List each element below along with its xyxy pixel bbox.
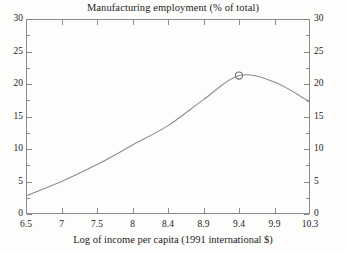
y-axis-tick-label-right: 0 <box>314 209 319 219</box>
axis-tick <box>27 149 32 150</box>
x-axis-tick-label: 8 <box>130 220 135 230</box>
axis-tick <box>304 52 309 53</box>
chart-title: Manufacturing employment (% of total) <box>0 2 346 13</box>
x-axis-tick-label: 8.9 <box>198 220 210 230</box>
axis-tick <box>204 20 205 25</box>
axis-tick <box>27 198 30 199</box>
axis-tick <box>304 149 309 150</box>
axis-tick <box>27 68 30 69</box>
y-axis-tick-label-right: 10 <box>314 144 324 154</box>
axis-tick <box>306 68 309 69</box>
axis-tick <box>97 20 98 25</box>
axis-tick <box>304 84 309 85</box>
axis-tick <box>27 133 30 134</box>
axis-tick <box>133 208 134 213</box>
axis-tick <box>27 19 32 20</box>
axis-tick <box>27 35 30 36</box>
y-axis-tick-label-right: 5 <box>314 177 319 187</box>
x-axis-tick-label: 7.5 <box>91 220 103 230</box>
axis-tick <box>306 35 309 36</box>
y-axis-tick-label-left: 25 <box>6 47 23 57</box>
axis-tick <box>27 117 32 118</box>
axis-tick <box>306 198 309 199</box>
axis-tick <box>239 208 240 213</box>
x-axis-title: Log of income per capita (1991 internati… <box>0 234 346 245</box>
axis-tick <box>304 182 309 183</box>
axis-tick <box>204 208 205 213</box>
axis-tick <box>62 208 63 213</box>
axis-tick <box>275 20 276 25</box>
axis-tick <box>27 214 32 215</box>
axis-tick <box>304 19 309 20</box>
axis-tick <box>133 20 134 25</box>
axis-tick <box>97 208 98 213</box>
axis-tick <box>168 20 169 25</box>
x-axis-tick-label: 8.4 <box>162 220 174 230</box>
axis-tick <box>306 165 309 166</box>
axis-tick <box>304 117 309 118</box>
axis-tick <box>306 133 309 134</box>
series-line-manufacturing-employment <box>26 75 310 196</box>
axis-tick <box>239 20 240 25</box>
x-axis-tick-label: 9.4 <box>233 220 245 230</box>
axis-tick <box>62 20 63 25</box>
axis-tick <box>168 208 169 213</box>
x-axis-tick-label: 10.3 <box>302 220 319 230</box>
axis-tick <box>306 100 309 101</box>
axis-tick <box>27 100 30 101</box>
y-axis-tick-label-right: 25 <box>314 47 324 57</box>
plot-area <box>26 19 310 214</box>
chart-figure: Manufacturing employment (% of total) 05… <box>0 0 346 254</box>
y-axis-tick-label-left: 10 <box>6 144 23 154</box>
y-axis-tick-label-left: 15 <box>6 112 23 122</box>
axis-tick <box>304 214 309 215</box>
axis-tick <box>27 165 30 166</box>
y-axis-tick-label-left: 30 <box>6 14 23 24</box>
data-line-group <box>26 75 310 196</box>
axis-tick <box>27 182 32 183</box>
axis-tick <box>27 52 32 53</box>
y-axis-tick-label-right: 15 <box>314 112 324 122</box>
axis-tick <box>275 208 276 213</box>
x-axis-tick-label: 9.9 <box>269 220 281 230</box>
y-axis-tick-label-left: 0 <box>6 209 23 219</box>
x-axis-tick-label: 7 <box>59 220 64 230</box>
y-axis-tick-label-right: 30 <box>314 14 324 24</box>
y-axis-tick-label-left: 5 <box>6 177 23 187</box>
axis-tick <box>27 84 32 85</box>
x-axis-tick-label: 6.5 <box>20 220 32 230</box>
y-axis-tick-label-right: 20 <box>314 79 324 89</box>
y-axis-tick-label-left: 20 <box>6 79 23 89</box>
